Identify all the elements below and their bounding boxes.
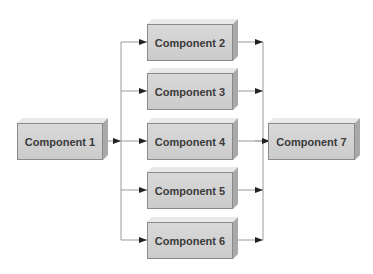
component-3-label: Component 3 [147,73,233,110]
component-2-node[interactable]: Component 2 [147,19,238,61]
component-7-node[interactable]: Component 7 [268,118,360,160]
component-1-node[interactable]: Component 1 [17,118,108,160]
box-side-bevel [103,118,108,160]
box-side-bevel [233,118,238,160]
box-side-bevel [233,167,238,209]
component-2-label: Component 2 [147,24,233,61]
box-side-bevel [233,68,238,110]
component-4-node[interactable]: Component 4 [147,118,238,160]
component-7-label: Component 7 [268,123,355,160]
component-1-label: Component 1 [17,123,103,160]
component-5-node[interactable]: Component 5 [147,167,238,209]
component-3-node[interactable]: Component 3 [147,68,238,110]
component-5-label: Component 5 [147,172,233,209]
box-side-bevel [355,118,360,160]
diagram-canvas: Component 1 Component 2 Component 3 Comp… [0,0,373,274]
box-side-bevel [233,217,238,259]
component-6-label: Component 6 [147,222,233,259]
box-side-bevel [233,19,238,61]
component-6-node[interactable]: Component 6 [147,217,238,259]
component-4-label: Component 4 [147,123,233,160]
